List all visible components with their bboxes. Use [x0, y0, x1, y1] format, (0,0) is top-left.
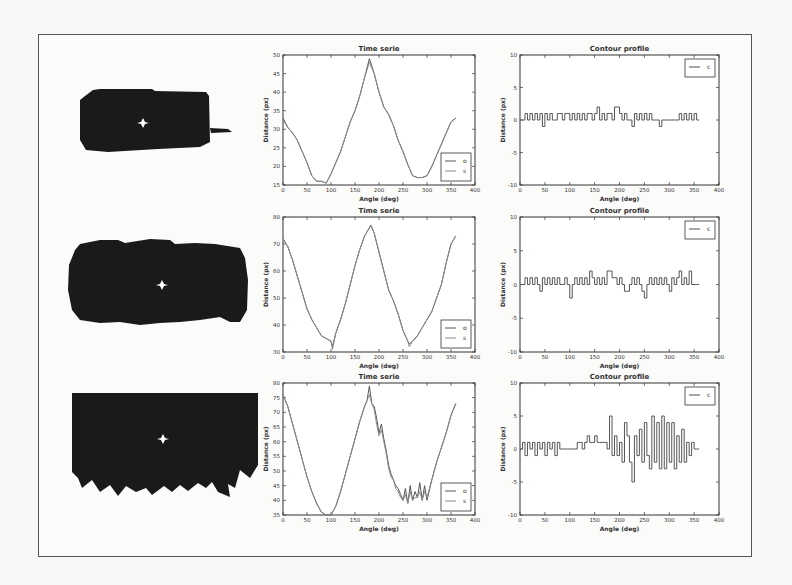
x-tick-label: 50 — [541, 517, 548, 523]
x-tick-label: 50 — [541, 187, 548, 193]
x-tick-label: 50 — [304, 517, 311, 523]
x-tick-label: 50 — [304, 187, 311, 193]
x-tick-label: 250 — [639, 354, 650, 360]
x-tick-label: 300 — [422, 517, 433, 523]
x-tick-label: 400 — [470, 354, 481, 360]
y-tick-label: 40 — [273, 322, 280, 328]
contour-profile-plot-3: Contour profileAngle (deg)Distance (px)0… — [499, 373, 725, 533]
x-axis-label: Angle (deg) — [600, 362, 640, 370]
legend-label: o — [463, 324, 467, 331]
x-tick-label: 400 — [714, 517, 725, 523]
y-tick-label: 35 — [273, 108, 280, 114]
legend-label: s — [463, 167, 466, 174]
x-tick-label: 350 — [689, 354, 700, 360]
x-tick-label: 300 — [664, 517, 675, 523]
y-tick-label: 25 — [273, 145, 280, 151]
plot-title: Contour profile — [590, 207, 650, 215]
x-tick-label: 0 — [518, 187, 522, 193]
x-tick-label: 400 — [470, 517, 481, 523]
x-tick-label: 350 — [446, 517, 457, 523]
x-tick-label: 50 — [304, 354, 311, 360]
legend: os — [441, 320, 471, 348]
x-tick-label: 400 — [470, 187, 481, 193]
x-tick-label: 0 — [518, 517, 522, 523]
x-tick-label: 250 — [639, 187, 650, 193]
x-axis-label: Angle (deg) — [359, 525, 399, 533]
x-tick-label: 50 — [541, 354, 548, 360]
x-axis-label: Angle (deg) — [359, 362, 399, 370]
y-tick-label: 80 — [273, 380, 280, 386]
y-tick-label: 40 — [273, 497, 280, 503]
y-tick-label: 30 — [273, 349, 280, 355]
legend-label: c — [707, 225, 710, 232]
shape-image-1 — [80, 89, 232, 152]
y-tick-label: 70 — [273, 409, 280, 415]
y-tick-label: -10 — [508, 349, 517, 355]
y-tick-label: 5 — [514, 85, 518, 91]
legend-label: c — [707, 391, 710, 398]
contour-profile-plot-1: Contour profileAngle (deg)Distance (px)0… — [499, 45, 725, 203]
y-axis-label: Distance (px) — [499, 262, 507, 307]
legend: c — [685, 221, 715, 239]
y-tick-label: 5 — [514, 248, 518, 254]
x-tick-label: 350 — [689, 517, 700, 523]
y-axis-label: Distance (px) — [262, 97, 270, 142]
contour-profile-plot-2: Contour profileAngle (deg)Distance (px)0… — [499, 207, 725, 370]
x-tick-label: 150 — [589, 517, 600, 523]
legend-label: s — [463, 334, 466, 341]
plot-title: Time serie — [358, 45, 399, 53]
legend-label: s — [463, 497, 466, 504]
x-tick-label: 0 — [281, 187, 285, 193]
plot-title: Time serie — [358, 207, 399, 215]
y-axis-label: Distance (px) — [262, 426, 270, 471]
x-tick-label: 200 — [374, 187, 385, 193]
x-tick-label: 150 — [589, 354, 600, 360]
y-axis-label: Distance (px) — [499, 97, 507, 142]
figure-canvas: Time serieAngle (deg)Distance (px)050100… — [0, 0, 792, 585]
y-tick-label: 0 — [514, 117, 518, 123]
x-tick-label: 150 — [589, 187, 600, 193]
x-axis-label: Angle (deg) — [600, 525, 640, 533]
x-tick-label: 200 — [614, 517, 625, 523]
y-tick-label: 50 — [273, 468, 280, 474]
x-tick-label: 200 — [374, 354, 385, 360]
x-tick-label: 0 — [281, 517, 285, 523]
y-tick-label: 40 — [273, 89, 280, 95]
y-tick-label: -10 — [508, 182, 517, 188]
y-tick-label: 20 — [273, 163, 280, 169]
x-tick-label: 200 — [374, 517, 385, 523]
y-tick-label: 80 — [273, 214, 280, 220]
x-tick-label: 250 — [398, 517, 409, 523]
time-series-plot-1: Time serieAngle (deg)Distance (px)050100… — [262, 45, 481, 203]
plot-title: Contour profile — [590, 45, 650, 53]
x-tick-label: 100 — [565, 354, 576, 360]
legend-label: o — [463, 487, 467, 494]
x-tick-label: 100 — [326, 187, 337, 193]
x-tick-label: 350 — [446, 187, 457, 193]
y-tick-label: 60 — [273, 268, 280, 274]
y-tick-label: 35 — [273, 512, 280, 518]
y-tick-label: 10 — [510, 52, 517, 58]
x-tick-label: 200 — [614, 187, 625, 193]
y-tick-label: 55 — [273, 453, 280, 459]
y-tick-label: 70 — [273, 241, 280, 247]
y-tick-label: -10 — [508, 512, 517, 518]
x-axis-label: Angle (deg) — [600, 195, 640, 203]
x-axis-label: Angle (deg) — [359, 195, 399, 203]
x-tick-label: 100 — [565, 187, 576, 193]
y-tick-label: -5 — [512, 479, 518, 485]
y-tick-label: 30 — [273, 126, 280, 132]
y-tick-label: 65 — [273, 424, 280, 430]
y-axis-label: Distance (px) — [262, 262, 270, 307]
y-tick-label: -5 — [512, 315, 518, 321]
shape-image-3 — [72, 393, 258, 497]
x-tick-label: 100 — [326, 517, 337, 523]
x-tick-label: 150 — [350, 517, 361, 523]
x-tick-label: 0 — [518, 354, 522, 360]
y-tick-label: -5 — [512, 150, 518, 156]
y-tick-label: 45 — [273, 71, 280, 77]
x-tick-label: 100 — [326, 354, 337, 360]
y-tick-label: 15 — [273, 182, 280, 188]
y-tick-label: 5 — [514, 413, 518, 419]
x-tick-label: 150 — [350, 187, 361, 193]
